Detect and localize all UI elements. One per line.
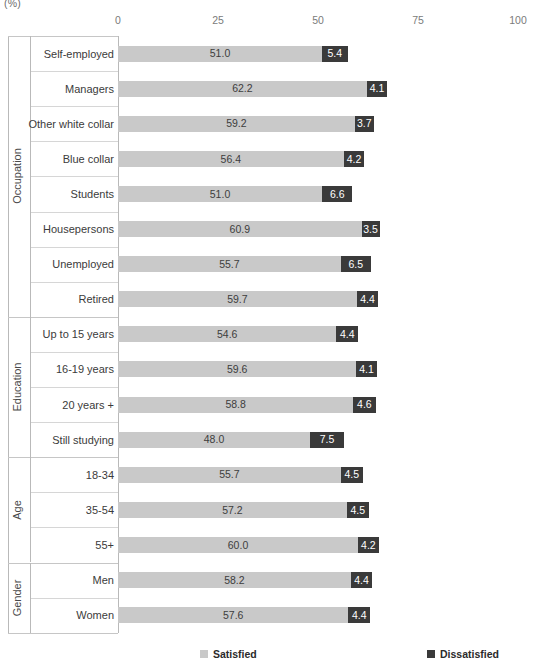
bar-segment-dissatisfied: 4.4	[351, 572, 373, 588]
chart-row: 35-5457.24.5	[0, 492, 537, 527]
bar-segment-dissatisfied: 4.5	[347, 502, 369, 518]
bar-value-dissatisfied: 4.1	[370, 83, 385, 94]
bar-value-dissatisfied: 3.7	[357, 118, 372, 129]
bar-segment-dissatisfied: 6.5	[341, 256, 371, 272]
chart-row: Still studying48.07.5	[0, 422, 537, 457]
bar-segment-dissatisfied: 4.2	[344, 151, 365, 167]
chart-row: Up to 15 years54.64.4	[0, 317, 537, 352]
category-label: Other white collar	[14, 117, 114, 131]
bar-segment-satisfied: 60.9	[118, 221, 362, 237]
bar-segment-satisfied: 58.2	[118, 572, 351, 588]
bar-value-dissatisfied: 6.6	[330, 189, 345, 200]
bar-segment-satisfied: 62.2	[118, 81, 367, 97]
category-label: Students	[14, 187, 114, 201]
x-tick-label-25: 25	[212, 14, 224, 26]
bar-value-dissatisfied: 4.6	[357, 399, 372, 410]
bar-segment-satisfied: 58.8	[118, 397, 353, 413]
legend-label: Dissatisfied	[440, 648, 499, 660]
bar-segment-satisfied: 51.0	[118, 46, 322, 62]
plot-area: OccupationEducationAgeGenderSelf-employe…	[0, 34, 537, 632]
chart-row: Students51.06.6	[0, 176, 537, 211]
chart-row: Other white collar59.23.7	[0, 106, 537, 141]
category-label: 20 years +	[14, 398, 114, 412]
bar-segment-satisfied: 57.6	[118, 607, 348, 623]
bar-segment-satisfied: 59.2	[118, 116, 355, 132]
chart-row: Men58.24.4	[0, 563, 537, 598]
bar-segment-dissatisfied: 4.4	[348, 607, 370, 623]
bar-value-dissatisfied: 3.5	[363, 224, 378, 235]
x-tick-label-50: 50	[312, 14, 324, 26]
legend-label: Satisfied	[213, 648, 257, 660]
bar-value-dissatisfied: 4.5	[344, 469, 359, 480]
bar-segment-dissatisfied: 4.6	[353, 397, 375, 413]
category-label: 16-19 years	[14, 362, 114, 376]
bar-segment-satisfied: 54.6	[118, 326, 336, 342]
bar-segment-dissatisfied: 6.6	[322, 186, 352, 202]
bar-value-satisfied: 57.6	[223, 610, 243, 621]
chart-row: Blue collar56.44.2	[0, 141, 537, 176]
legend-item-dissatisfied[interactable]: Dissatisfied	[427, 648, 499, 660]
category-label: Blue collar	[14, 152, 114, 166]
bar-segment-satisfied: 55.7	[118, 467, 341, 483]
category-label: 55+	[14, 538, 114, 552]
chart-row: 20 years +58.84.6	[0, 387, 537, 422]
bar-value-dissatisfied: 4.5	[350, 505, 365, 516]
bar-segment-dissatisfied: 3.7	[355, 116, 374, 132]
bar-segment-satisfied: 51.0	[118, 186, 322, 202]
bar-segment-dissatisfied: 4.1	[356, 361, 376, 377]
x-tick-label-0: 0	[115, 14, 121, 26]
legend-item-satisfied[interactable]: Satisfied	[200, 648, 257, 660]
bar-segment-dissatisfied: 7.5	[310, 432, 344, 448]
bar-value-satisfied: 55.7	[219, 259, 239, 270]
chart-row: Women57.64.4	[0, 598, 537, 633]
category-label: Retired	[14, 292, 114, 306]
bar-segment-dissatisfied: 3.5	[362, 221, 380, 237]
bar-value-satisfied: 60.0	[228, 540, 248, 551]
bar-value-dissatisfied: 6.5	[348, 259, 363, 270]
bar-segment-satisfied: 56.4	[118, 151, 344, 167]
chart-row: Unemployed55.76.5	[0, 247, 537, 282]
bar-segment-satisfied: 48.0	[118, 432, 310, 448]
bar-value-satisfied: 54.6	[217, 329, 237, 340]
bar-value-satisfied: 59.6	[227, 364, 247, 375]
category-label: Still studying	[14, 433, 114, 447]
bar-segment-satisfied: 60.0	[118, 537, 358, 553]
bar-value-satisfied: 51.0	[210, 189, 230, 200]
stacked-bar-chart: (%) 0255075100 OccupationEducationAgeGen…	[0, 0, 537, 663]
bar-segment-dissatisfied: 4.4	[336, 326, 358, 342]
chart-row: Housepersons60.93.5	[0, 212, 537, 247]
bar-value-dissatisfied: 4.4	[352, 610, 367, 621]
x-tick-label-100: 100	[509, 14, 527, 26]
bar-value-satisfied: 48.0	[204, 434, 224, 445]
chart-row: 55+60.04.2	[0, 527, 537, 562]
bar-value-dissatisfied: 4.4	[340, 329, 355, 340]
bar-segment-satisfied: 59.7	[118, 291, 357, 307]
x-axis-tick-labels: 0255075100	[0, 14, 537, 34]
bar-value-satisfied: 62.2	[232, 83, 252, 94]
bar-value-dissatisfied: 4.2	[361, 540, 376, 551]
bar-segment-satisfied: 55.7	[118, 256, 341, 272]
x-tick-label-75: 75	[412, 14, 424, 26]
legend-swatch-icon	[427, 650, 435, 658]
category-label: 18-34	[14, 468, 114, 482]
bar-value-dissatisfied: 5.4	[327, 48, 342, 59]
bar-value-satisfied: 58.8	[225, 399, 245, 410]
chart-row: Self-employed51.05.4	[0, 36, 537, 71]
bar-value-dissatisfied: 4.2	[347, 154, 362, 165]
category-label: Self-employed	[14, 47, 114, 61]
chart-row: Retired59.74.4	[0, 282, 537, 317]
bar-value-dissatisfied: 4.4	[360, 294, 375, 305]
bar-value-satisfied: 60.9	[230, 224, 250, 235]
bar-value-satisfied: 59.7	[227, 294, 247, 305]
bar-segment-dissatisfied: 5.4	[322, 46, 348, 62]
chart-legend: SatisfiedDissatisfied	[0, 648, 537, 663]
category-label: 35-54	[14, 503, 114, 517]
group-boundary-line	[8, 633, 118, 634]
bar-segment-satisfied: 57.2	[118, 502, 347, 518]
chart-row: Managers62.24.1	[0, 71, 537, 106]
bar-value-dissatisfied: 4.1	[359, 364, 374, 375]
bar-segment-dissatisfied: 4.2	[358, 537, 379, 553]
category-label: Managers	[14, 82, 114, 96]
bar-segment-dissatisfied: 4.5	[341, 467, 363, 483]
unit-label: (%)	[4, 0, 21, 9]
